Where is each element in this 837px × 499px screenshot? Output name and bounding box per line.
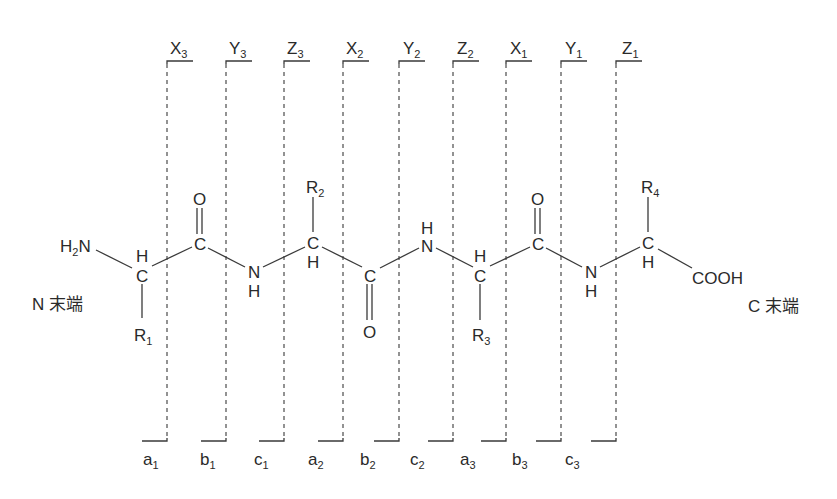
amide-nitrogen-3: N: [585, 263, 597, 282]
amino-group: H2N: [60, 237, 91, 258]
atoms: H2N H C R1 O C N H R2 C H C O H N H C R3…: [60, 178, 743, 347]
ion-label-x3: X3: [170, 39, 187, 60]
ion-label-z1: Z1: [622, 39, 639, 60]
side-chain-r1: R1: [134, 326, 152, 347]
bottom-ion-labels: a1 b1 c1 a2 b2 c2 a3 b3 c3: [143, 450, 580, 471]
alpha-carbon-1-h: H: [136, 247, 148, 266]
ion-label-y3: Y3: [229, 39, 246, 60]
amide-nitrogen-1-h: H: [248, 282, 260, 301]
alpha-carbon-2-h: H: [307, 253, 319, 272]
ion-label-y2: Y2: [403, 39, 420, 60]
ion-label-c1: c1: [254, 450, 269, 471]
ion-label-z2: Z2: [457, 39, 474, 60]
ion-label-a3: a3: [460, 450, 476, 471]
alpha-carbon-1: C: [136, 267, 148, 286]
bonds: [96, 197, 692, 320]
ion-label-x1: X1: [510, 39, 527, 60]
amide-nitrogen-2: N: [421, 237, 433, 256]
ion-label-b3: b3: [512, 450, 528, 471]
ion-label-z3: Z3: [287, 39, 304, 60]
side-chain-r2: R2: [306, 178, 324, 199]
cleavage-line-5: [374, 61, 425, 441]
carbonyl-carbon-3: C: [532, 235, 544, 254]
amide-nitrogen-1: N: [248, 263, 260, 282]
carbonyl-oxygen-3: O: [531, 190, 544, 209]
ion-label-c3: c3: [565, 450, 580, 471]
cleavage-line-4: [318, 61, 369, 441]
ion-label-c2: c2: [410, 450, 425, 471]
alpha-carbon-2: C: [307, 234, 319, 253]
ion-label-a2: a2: [308, 450, 324, 471]
cleavage-line-1: [142, 61, 193, 441]
carbonyl-oxygen-1: O: [193, 190, 206, 209]
alpha-carbon-4-h: H: [642, 253, 654, 272]
cleavage-line-7: [481, 61, 532, 441]
top-ion-labels: X3 Y3 Z3 X2 Y2 Z2 X1 Y1 Z1: [170, 39, 639, 60]
ion-label-a1: a1: [143, 450, 159, 471]
ion-label-x2: X2: [346, 39, 363, 60]
cleavage-line-6: [428, 61, 479, 441]
carboxyl-group: COOH: [692, 269, 743, 288]
carbonyl-carbon-1: C: [194, 235, 206, 254]
ion-label-b1: b1: [200, 450, 216, 471]
amide-nitrogen-3-h: H: [585, 282, 597, 301]
amide-nitrogen-2-h: H: [421, 219, 433, 238]
ion-label-y1: Y1: [565, 39, 582, 60]
n-terminus-label: N 末端: [32, 295, 83, 314]
side-chain-r3: R3: [472, 326, 490, 347]
cleavage-line-9: [591, 61, 642, 441]
cleavage-lines: [142, 61, 642, 441]
carbonyl-oxygen-2: O: [363, 323, 376, 342]
peptide-fragmentation-diagram: X3 Y3 Z3 X2 Y2 Z2 X1 Y1 Z1 a1 b1 c1 a2 b…: [0, 0, 837, 499]
cleavage-line-3: [259, 61, 310, 441]
ion-label-b2: b2: [360, 450, 376, 471]
cleavage-line-2: [201, 61, 252, 441]
carbonyl-carbon-2: C: [364, 267, 376, 286]
c-terminus-label: C 末端: [748, 297, 799, 316]
alpha-carbon-4: C: [642, 234, 654, 253]
alpha-carbon-3: C: [474, 267, 486, 286]
side-chain-r4: R4: [641, 178, 659, 199]
alpha-carbon-3-h: H: [474, 247, 486, 266]
